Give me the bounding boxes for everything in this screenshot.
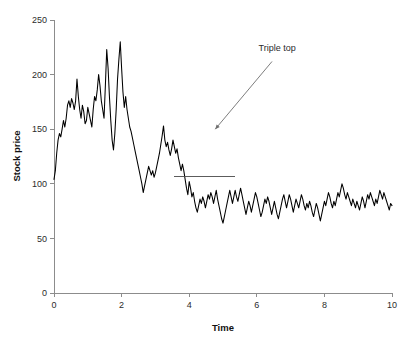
- x-tick-label: 6: [254, 300, 259, 310]
- annotation-label-triple-top: Triple top: [258, 43, 295, 53]
- x-tick-label: 8: [322, 300, 327, 310]
- y-tick-label: 250: [32, 15, 47, 25]
- axes-group: [54, 20, 392, 293]
- stock-price-line-chart: 050100150200250 0246810 Stock price Time…: [0, 0, 411, 344]
- y-tick-label: 0: [42, 288, 47, 298]
- y-axis-ticks: 050100150200250: [32, 15, 54, 298]
- annotation-arrow-line: [215, 61, 272, 129]
- x-tick-label: 10: [387, 300, 397, 310]
- x-axis-title: Time: [212, 322, 234, 333]
- y-tick-label: 50: [37, 234, 47, 244]
- x-tick-label: 2: [119, 300, 124, 310]
- chart-figure: 050100150200250 0246810 Stock price Time…: [0, 0, 411, 344]
- y-tick-label: 200: [32, 70, 47, 80]
- x-tick-label: 4: [187, 300, 192, 310]
- y-tick-label: 150: [32, 124, 47, 134]
- price-series-line: [54, 42, 392, 223]
- y-axis-title: Stock price: [11, 130, 22, 181]
- x-axis-ticks: 0246810: [51, 293, 397, 310]
- chart-annotations: Triple top: [215, 43, 295, 130]
- x-tick-label: 0: [51, 300, 56, 310]
- y-tick-label: 100: [32, 179, 47, 189]
